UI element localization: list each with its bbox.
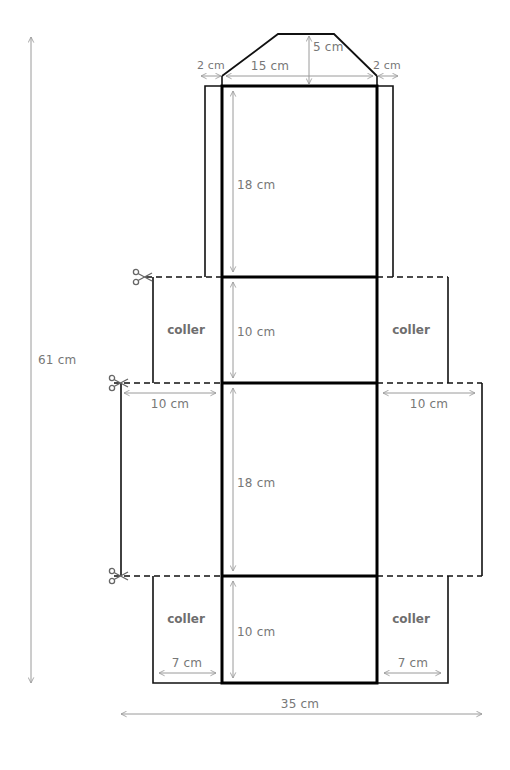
top-flap	[222, 34, 377, 76]
main-panels	[222, 86, 377, 683]
box-template-diagram: 61 cm 35 cm 5 cm 15 cm 2 cm 2 cm 18 cm 1…	[0, 0, 510, 770]
top-panel-height-label: 18 cm	[237, 178, 275, 192]
glue-label-lower-left: coller	[167, 612, 205, 626]
glue-label-upper-right: coller	[392, 323, 430, 337]
dashed-fold-lines	[114, 277, 482, 576]
left-strip-width-label: 2 cm	[197, 59, 225, 73]
right-strip-width-label: 2 cm	[373, 59, 401, 73]
diagram-drawing	[0, 0, 510, 770]
bottom-panel-height-label: 10 cm	[237, 625, 275, 639]
flap-width-label: 15 cm	[251, 59, 289, 73]
right-wing-width-label: 10 cm	[410, 397, 448, 411]
lower-mid-panel-height-label: 18 cm	[237, 476, 275, 490]
bottom-left-width-label: 7 cm	[172, 656, 203, 670]
total-height-label: 61 cm	[38, 353, 76, 367]
flap-height-label: 5 cm	[313, 40, 344, 54]
total-width-label: 35 cm	[281, 697, 319, 711]
right-side-strip	[377, 86, 393, 277]
bottom-right-width-label: 7 cm	[398, 656, 429, 670]
glue-label-upper-left: coller	[167, 323, 205, 337]
upper-mid-panel-height-label: 10 cm	[237, 325, 275, 339]
left-side-strip	[205, 86, 222, 277]
left-wing-width-label: 10 cm	[151, 397, 189, 411]
glue-label-lower-right: coller	[392, 612, 430, 626]
